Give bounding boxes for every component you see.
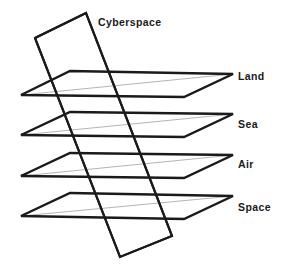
air-label: Air [238,159,254,170]
sea-label: Sea [238,119,258,130]
land-label: Land [238,71,265,82]
cyberspace-label: Cyberspace [98,17,162,28]
layered-planes-diagram [0,0,286,279]
diagram-root: Cyberspace Land Sea Air Space [0,0,286,279]
space-label: Space [238,202,271,213]
plane-diagonal-air [21,155,233,176]
plane-diagonal-space [21,196,233,216]
